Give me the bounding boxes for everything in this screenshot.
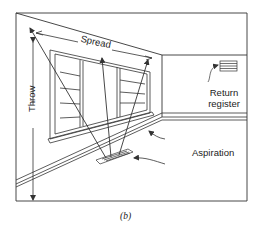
aspiration-label: Aspiration bbox=[192, 147, 234, 158]
diagram-canvas bbox=[0, 0, 259, 232]
room-air-diagram: Spread Throw Return register Aspiration … bbox=[0, 0, 259, 232]
aspiration-arrows bbox=[134, 131, 165, 164]
return-register-label-line2: register bbox=[199, 98, 249, 109]
window bbox=[48, 50, 154, 143]
throw-label: Throw bbox=[26, 86, 37, 112]
return-register-label-line1: Return bbox=[199, 87, 249, 98]
return-register-label: Return register bbox=[199, 87, 249, 109]
return-register bbox=[208, 61, 237, 82]
figure-caption: (b) bbox=[120, 211, 131, 221]
